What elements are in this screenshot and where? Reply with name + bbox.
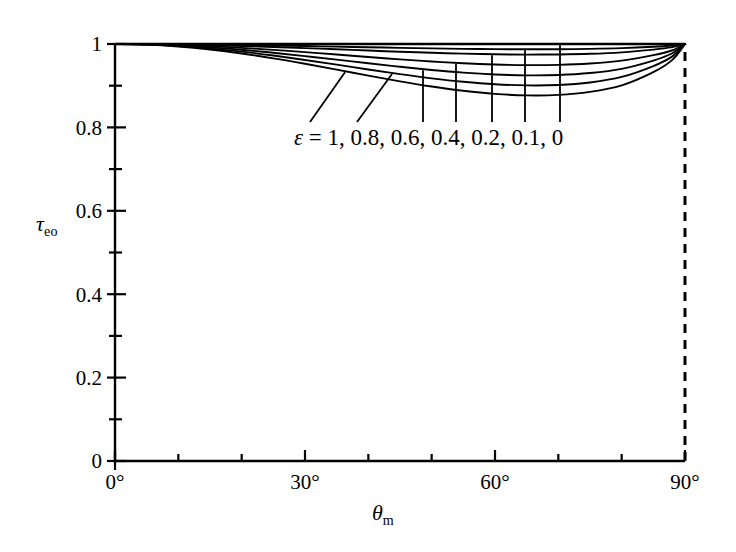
curve-series-1 xyxy=(115,44,685,85)
x-axis-title-symbol: θ xyxy=(372,500,383,525)
leader-line-diagonal-0 xyxy=(310,72,345,122)
y-tick-label-04: 0.4 xyxy=(52,285,102,306)
x-tick-label-0deg: 0° xyxy=(85,472,145,493)
y-tick-label-0: 0 xyxy=(52,451,102,472)
y-tick-label-06: 0.6 xyxy=(52,201,102,222)
axes-group xyxy=(107,44,685,470)
data-curves-group xyxy=(115,44,685,95)
y-tick-label-08: 0.8 xyxy=(52,118,102,139)
x-tick-label-30deg: 30° xyxy=(275,472,335,493)
x-axis-title: θm xyxy=(372,502,394,524)
legend-equals: = xyxy=(303,125,327,150)
y-axis-title-subscript: eo xyxy=(44,223,58,239)
leader-line-diagonal-1 xyxy=(357,74,392,122)
annotation-leader-lines xyxy=(310,45,560,122)
legend-values: 1, 0.8, 0.6, 0.4, 0.2, 0.1, 0 xyxy=(328,125,564,150)
y-axis-title-symbol: τ xyxy=(36,211,44,236)
y-tick-label-1: 1 xyxy=(52,34,102,55)
curve-family-legend: ε = 1, 0.8, 0.6, 0.4, 0.2, 0.1, 0 xyxy=(294,126,563,149)
x-tick-label-90deg: 90° xyxy=(655,472,715,493)
y-axis-title: τeo xyxy=(36,213,58,235)
figure-container: 0 0.2 0.4 0.6 0.8 1 0° 30° 60° 90° τeo θ… xyxy=(0,0,736,552)
x-tick-label-60deg: 60° xyxy=(465,472,525,493)
legend-epsilon-symbol: ε xyxy=(294,125,303,150)
x-axis-title-subscript: m xyxy=(383,512,394,528)
y-tick-label-02: 0.2 xyxy=(52,368,102,389)
